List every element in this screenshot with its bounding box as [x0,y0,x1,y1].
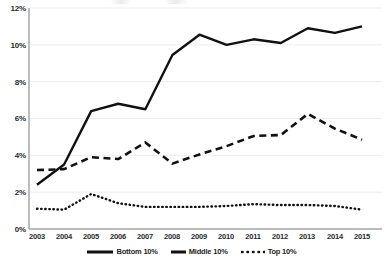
legend-item-top[interactable]: Top 10% [241,247,297,256]
legend-key-solid [87,248,113,256]
line-chart: 12% 10% 8% 6% 4% 2% 0% 2003 2004 2005 20… [0,0,384,261]
legend-item-bottom[interactable]: Bottom 10% [87,247,157,256]
legend-item-middle[interactable]: Middle 10% [171,247,228,256]
gridlines [30,8,382,192]
legend-label: Top 10% [268,247,297,256]
series-line-bottom-10 [37,26,362,184]
chart-legend: Bottom 10% Middle 10% Top 10% [0,247,384,256]
legend-key-dotted [241,248,265,256]
series-line-top-10 [37,194,362,210]
legend-label: Middle 10% [189,247,228,256]
legend-label: Bottom 10% [116,247,157,256]
plot-area [0,0,384,261]
legend-key-dashed [171,248,186,256]
